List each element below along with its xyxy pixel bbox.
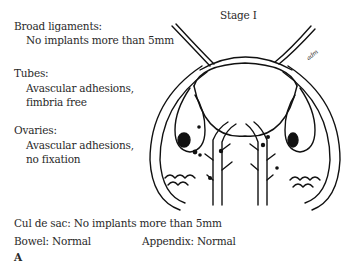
- ovaries-detail-1: Avascular adhesions,: [14, 139, 134, 151]
- tubes-label: Tubes:: [14, 67, 48, 79]
- stage-title: Stage I: [220, 9, 257, 21]
- tubes-detail-1: Avascular adhesions,: [14, 82, 134, 94]
- tubes-detail-2: fimbria free: [14, 96, 87, 108]
- ovaries-label: Ovaries:: [14, 124, 57, 136]
- cul-de-sac-note: Cul de sac: No implants more than 5mm: [14, 217, 222, 229]
- panel-label: A: [14, 251, 22, 263]
- broad-ligaments-detail: No implants more than 5mm: [14, 34, 174, 46]
- ovaries-detail-2: no fixation: [14, 153, 80, 165]
- bowel-note: Bowel: Normal: [14, 235, 91, 247]
- appendix-note: Appendix: Normal: [142, 235, 236, 247]
- broad-ligaments-label: Broad ligaments:: [14, 20, 102, 32]
